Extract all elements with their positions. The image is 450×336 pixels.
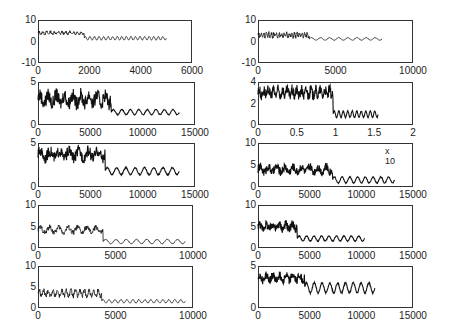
- signal-trace: [0, 0, 450, 336]
